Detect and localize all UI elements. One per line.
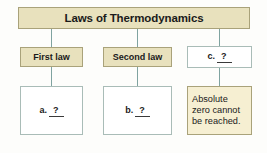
node-second-law: Second law: [103, 47, 172, 67]
connector-second-law-to-b-blank: [137, 67, 138, 86]
node-absolute-zero-statement: Absolute zero cannot be reached.: [187, 86, 252, 135]
blank-b[interactable]: b. ?: [125, 105, 150, 117]
connector-first-law-to-a-blank: [51, 67, 52, 86]
blank-c-value[interactable]: ?: [217, 51, 232, 63]
blank-a[interactable]: a. ?: [39, 105, 63, 117]
first-law-label: First law: [33, 52, 70, 62]
node-laws-of-thermodynamics: Laws of Thermodynamics: [18, 7, 250, 29]
node-third-law-blank[interactable]: c. ?: [187, 46, 252, 68]
node-second-law-answer-blank[interactable]: b. ?: [103, 86, 172, 135]
connector-title-to-second-law: [137, 29, 138, 47]
blank-b-value[interactable]: ?: [135, 105, 150, 117]
blank-c[interactable]: c. ?: [207, 51, 231, 63]
absolute-zero-text: Absolute zero cannot be reached.: [192, 94, 247, 128]
node-first-law-answer-blank[interactable]: a. ?: [20, 86, 83, 135]
blank-c-marker: c.: [207, 51, 215, 61]
blank-a-marker: a.: [39, 105, 47, 115]
connector-third-law-to-absolute-zero: [219, 68, 220, 86]
title-label: Laws of Thermodynamics: [64, 12, 203, 24]
blank-a-value[interactable]: ?: [49, 105, 64, 117]
diagram-canvas: Laws of Thermodynamics First law Second …: [0, 0, 267, 153]
node-first-law: First law: [20, 47, 83, 67]
connector-title-to-first-law: [51, 29, 52, 47]
connector-title-to-third-law: [219, 29, 220, 46]
second-law-label: Second law: [113, 52, 163, 62]
blank-b-marker: b.: [125, 105, 133, 115]
